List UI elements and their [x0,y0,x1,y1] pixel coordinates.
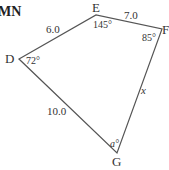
vertex-label-g: G [112,154,121,169]
side-label-ef: 7.0 [124,9,138,21]
side-label-gd: 10.0 [47,105,67,117]
quadrilateral-diagram: MN D E F G 6.0 7.0 x 10.0 72° 145° 85° a… [0,0,169,170]
side-label-fg: x [140,84,146,96]
vertex-label-f: F [162,22,169,37]
angle-label-f: 85° [142,32,156,43]
vertex-label-e: E [92,0,100,15]
header-fragment: MN [0,4,21,19]
angle-label-d: 72° [26,55,40,66]
angle-label-e: 145° [93,19,112,30]
side-label-de: 6.0 [46,23,60,35]
vertex-label-d: D [5,51,14,66]
angle-label-g: a° [110,138,119,149]
